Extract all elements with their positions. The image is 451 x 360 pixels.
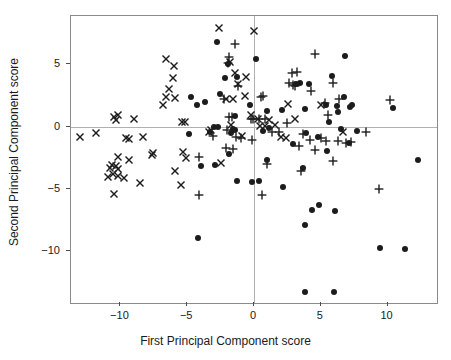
data-point-dot <box>194 102 200 108</box>
data-point-dot <box>247 102 253 108</box>
data-point-plus <box>328 78 338 88</box>
data-point-cross <box>229 95 238 104</box>
data-point-plus <box>321 136 331 146</box>
data-point-plus <box>310 49 320 59</box>
data-point-dot <box>377 245 383 251</box>
data-point-dot <box>186 131 192 137</box>
data-point-plus <box>305 135 315 145</box>
data-point-dot <box>222 75 228 81</box>
data-point-cross <box>110 189 119 198</box>
data-point-cross <box>171 167 180 176</box>
data-point-cross <box>136 179 145 188</box>
data-point-plus <box>260 114 270 124</box>
data-point-dot <box>323 102 329 108</box>
data-point-dot <box>309 207 315 213</box>
data-point-dot <box>349 102 355 108</box>
data-point-dot <box>266 125 272 131</box>
data-point-dot <box>232 127 238 133</box>
data-point-dot <box>234 178 240 184</box>
y-axis-tick <box>66 250 70 251</box>
data-point-dot <box>334 103 340 109</box>
data-point-dot <box>212 162 218 168</box>
x-axis-tick <box>320 302 321 306</box>
data-point-dot <box>354 128 360 134</box>
y-axis-tick-label: 0 <box>24 120 60 132</box>
data-point-dot <box>324 148 330 154</box>
data-point-dot <box>342 53 348 59</box>
data-point-dot <box>260 128 266 134</box>
data-point-plus <box>361 127 371 137</box>
y-axis-tick <box>66 63 70 64</box>
x-axis-tick-label: 5 <box>317 309 323 321</box>
data-point-dot <box>207 129 213 135</box>
x-axis-label: First Principal Component score <box>0 334 451 348</box>
data-point-dot <box>198 163 204 169</box>
data-point-plus <box>292 67 302 77</box>
data-point-cross <box>125 155 134 164</box>
data-point-dot <box>302 222 308 228</box>
data-point-cross <box>169 62 178 71</box>
data-point-dot <box>226 151 232 157</box>
x-axis-tick <box>119 302 120 306</box>
data-point-cross <box>147 150 156 159</box>
data-point-dot <box>341 94 347 100</box>
data-point-dot <box>300 165 306 171</box>
data-point-cross <box>177 180 186 189</box>
x-axis-tick <box>253 302 254 306</box>
y-axis-tick <box>66 188 70 189</box>
data-point-plus <box>230 39 240 49</box>
x-axis-tick-label: 0 <box>250 309 256 321</box>
data-point-dot <box>338 126 344 132</box>
data-point-dot <box>303 130 309 136</box>
data-point-cross <box>139 133 148 142</box>
data-point-dot <box>331 289 337 295</box>
data-point-cross <box>113 171 122 180</box>
data-point-dot <box>306 81 312 87</box>
data-point-dot <box>315 134 321 140</box>
data-point-cross <box>121 134 130 143</box>
data-point-plus <box>310 145 320 155</box>
data-point-plus <box>282 118 292 128</box>
y-axis-label: Second Principal Component score <box>7 52 21 252</box>
data-point-cross <box>76 132 85 141</box>
data-point-dot <box>264 157 270 163</box>
data-point-dot <box>335 109 341 115</box>
data-point-cross <box>215 24 224 33</box>
data-point-cross <box>241 91 250 100</box>
plot-frame <box>70 15 438 304</box>
data-point-dot <box>225 61 231 67</box>
data-point-cross <box>92 129 101 138</box>
data-point-cross <box>171 94 180 103</box>
x-axis-tick <box>387 302 388 306</box>
data-point-plus <box>194 152 204 162</box>
data-point-dot <box>232 113 238 119</box>
y-axis-tick-label: −5 <box>24 182 60 194</box>
data-point-dot <box>390 105 396 111</box>
y-axis-tick-label: −10 <box>24 244 60 256</box>
data-point-plus <box>306 86 316 96</box>
data-point-cross <box>113 111 122 120</box>
data-point-plus <box>328 156 338 166</box>
data-point-dot <box>297 80 303 86</box>
data-point-dot <box>202 99 208 105</box>
scatter-plot-figure: −10−5051050−5−10 First Principal Compone… <box>0 0 451 360</box>
data-point-dot <box>302 289 308 295</box>
x-axis-tick-label: −5 <box>180 309 193 321</box>
data-point-dot <box>264 108 270 114</box>
data-point-cross <box>250 26 259 35</box>
data-point-cross <box>130 115 139 124</box>
x-axis-tick <box>186 302 187 306</box>
data-point-dot <box>346 140 352 146</box>
data-point-dot <box>253 56 259 62</box>
x-axis-tick-label: −10 <box>110 309 129 321</box>
data-point-dot <box>188 94 194 100</box>
data-point-dot <box>279 107 285 113</box>
horizontal-reference-line <box>71 127 437 128</box>
data-point-dot <box>249 179 255 185</box>
data-point-dot <box>316 202 322 208</box>
data-point-plus <box>258 91 268 101</box>
data-point-dot <box>234 74 240 80</box>
data-point-plus <box>294 141 304 151</box>
data-point-dot <box>290 141 296 147</box>
data-point-plus <box>374 184 384 194</box>
